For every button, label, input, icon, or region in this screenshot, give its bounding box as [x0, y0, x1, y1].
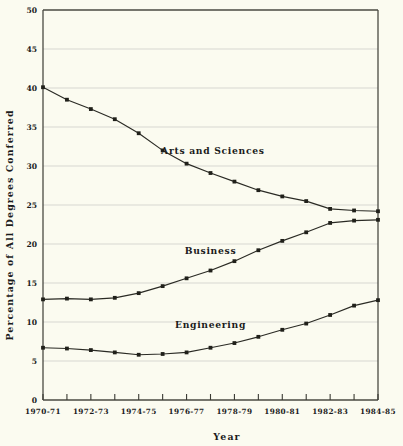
- y-tick-label: 40: [26, 84, 37, 93]
- y-tick-label: 20: [26, 240, 37, 249]
- y-tick-label: 25: [26, 201, 37, 210]
- data-point-marker: [304, 230, 308, 234]
- y-tick-label: 50: [26, 6, 37, 15]
- data-point-marker: [376, 218, 380, 222]
- series-label: Arts and Sciences: [160, 145, 265, 156]
- data-point-marker: [256, 335, 260, 339]
- data-point-marker: [89, 297, 93, 301]
- y-tick-label: 35: [26, 123, 37, 132]
- data-point-marker: [185, 351, 189, 355]
- series-label: Business: [185, 245, 237, 256]
- data-point-marker: [161, 284, 165, 288]
- y-tick-label: 5: [32, 357, 37, 366]
- data-point-marker: [185, 162, 189, 166]
- data-point-marker: [65, 98, 69, 102]
- data-point-marker: [233, 259, 237, 263]
- x-tick-label: 1970-71: [25, 407, 61, 416]
- data-point-marker: [113, 117, 117, 121]
- y-tick-label: 45: [26, 45, 37, 54]
- data-point-marker: [41, 297, 45, 301]
- data-point-marker: [328, 221, 332, 225]
- data-point-marker: [113, 351, 117, 355]
- y-axis-title: Percentage of All Degrees Conferred: [4, 109, 15, 340]
- data-point-marker: [328, 207, 332, 211]
- data-point-marker: [113, 296, 117, 300]
- x-tick-label: 1982-83: [312, 407, 348, 416]
- data-point-marker: [209, 346, 213, 350]
- data-point-marker: [376, 209, 380, 213]
- data-point-marker: [65, 347, 69, 351]
- x-tick-label: 1980-81: [264, 407, 300, 416]
- data-point-marker: [280, 239, 284, 243]
- data-point-marker: [41, 346, 45, 350]
- data-point-marker: [352, 219, 356, 223]
- data-point-marker: [137, 353, 141, 357]
- data-point-marker: [233, 180, 237, 184]
- line-chart-figure: 05101520253035404550 1970-711972-731974-…: [0, 0, 403, 446]
- data-point-marker: [41, 85, 45, 89]
- y-tick-label: 10: [26, 318, 37, 327]
- chart-canvas: 05101520253035404550 1970-711972-731974-…: [0, 0, 403, 446]
- data-point-marker: [185, 276, 189, 280]
- x-axis-title: Year: [212, 431, 240, 442]
- data-point-marker: [65, 297, 69, 301]
- data-point-marker: [233, 341, 237, 345]
- x-tick-label: 1984-85: [360, 407, 396, 416]
- x-tick-label: 1978-79: [216, 407, 252, 416]
- x-tick-label: 1972-73: [73, 407, 109, 416]
- data-point-marker: [209, 171, 213, 175]
- x-tick-label: 1974-75: [121, 407, 157, 416]
- y-tick-label: 15: [26, 279, 37, 288]
- data-point-marker: [280, 195, 284, 199]
- x-tick-label: 1976-77: [169, 407, 205, 416]
- y-tick-label: 0: [32, 396, 37, 405]
- data-point-marker: [328, 313, 332, 317]
- data-point-marker: [137, 131, 141, 135]
- y-tick-label: 30: [26, 162, 37, 171]
- data-point-marker: [161, 352, 165, 356]
- data-point-marker: [89, 348, 93, 352]
- data-point-marker: [256, 188, 260, 192]
- series-label: Engineering: [175, 319, 246, 330]
- data-point-marker: [376, 298, 380, 302]
- data-point-marker: [256, 248, 260, 252]
- data-point-marker: [209, 269, 213, 273]
- data-point-marker: [304, 199, 308, 203]
- data-point-marker: [352, 304, 356, 308]
- data-point-marker: [89, 107, 93, 111]
- data-point-marker: [280, 328, 284, 332]
- data-point-marker: [352, 209, 356, 213]
- data-point-marker: [304, 322, 308, 326]
- chart-background: [0, 0, 403, 446]
- data-point-marker: [137, 291, 141, 295]
